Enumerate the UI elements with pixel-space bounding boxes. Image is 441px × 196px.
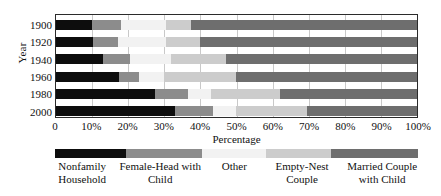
legend-label-line: Nonfamily — [45, 160, 119, 173]
x-tick-label-20: 20% — [118, 120, 138, 132]
x-axis-tick-labels: 010%20%30%40%50%60%70%80%90%100% — [55, 120, 418, 134]
bar-segment — [155, 89, 187, 99]
gridline-70 — [309, 15, 310, 117]
legend-swatch-1 — [55, 149, 126, 158]
y-axis-tick-labels: 190019201940196019802000 — [14, 17, 52, 115]
bar-segment — [121, 20, 166, 30]
bar-row — [56, 89, 417, 99]
bar-segment — [236, 106, 306, 116]
bar-segment — [175, 106, 213, 116]
y-tick-label-1920: 1920 — [14, 34, 52, 50]
gridline-10 — [92, 15, 93, 117]
bar-segment — [171, 54, 225, 64]
bar-row — [56, 72, 417, 82]
bar-row — [56, 54, 417, 64]
legend-label-line: Female-Head with — [119, 160, 201, 173]
legend-label-line: Other — [201, 160, 268, 173]
legend-label-line: Child — [119, 173, 201, 186]
bar-segment — [139, 72, 164, 82]
legend-swatch-2 — [126, 149, 202, 158]
y-tick-label-2000: 2000 — [14, 104, 52, 120]
legend-label-1: NonfamilyHousehold — [45, 160, 119, 186]
legend-label-line: with Child — [336, 173, 428, 186]
plot-area — [55, 14, 418, 118]
x-tick-label-70: 70% — [299, 120, 319, 132]
bar-segment — [103, 54, 130, 64]
legend-label-3: Other — [201, 160, 268, 186]
x-tick-label-60: 60% — [263, 120, 283, 132]
x-axis-label: Percentage — [55, 133, 418, 145]
x-tick-label-50: 50% — [226, 120, 246, 132]
gridline-60 — [273, 15, 274, 117]
bar-segment — [307, 106, 417, 116]
legend-swatch-bar — [55, 149, 418, 158]
legend-swatch-5 — [331, 149, 418, 158]
bar-row — [56, 37, 417, 47]
legend-label-2: Female-Head withChild — [119, 160, 201, 186]
bar-segment — [166, 20, 191, 30]
legend-swatch-4 — [266, 149, 331, 158]
plot-inner — [56, 15, 417, 117]
bar-segment — [93, 37, 118, 47]
bar-segment — [226, 54, 417, 64]
bar-segment — [191, 20, 417, 30]
bar-segment — [56, 106, 175, 116]
gridline-20 — [128, 15, 129, 117]
bar-segment — [236, 72, 417, 82]
bar-segment — [56, 37, 93, 47]
gridline-40 — [200, 15, 201, 117]
x-tick-label-0: 0 — [52, 120, 58, 132]
x-tick-label-40: 40% — [190, 120, 210, 132]
bar-row — [56, 106, 417, 116]
bar-segment — [211, 89, 280, 99]
bar-segment — [164, 72, 236, 82]
bar-segment — [56, 72, 119, 82]
y-tick-label-1980: 1980 — [14, 86, 52, 102]
gridline-30 — [164, 15, 165, 117]
gridline-90 — [381, 15, 382, 117]
y-tick-label-1960: 1960 — [14, 69, 52, 85]
legend-label-5: Married Couplewith Child — [336, 160, 428, 186]
chart-legend: NonfamilyHouseholdFemale-Head withChildO… — [55, 149, 418, 194]
bar-segment — [213, 106, 236, 116]
legend-label-line: Empty-Nest — [268, 160, 337, 173]
bar-segment — [200, 37, 417, 47]
legend-label-4: Empty-NestCouple — [268, 160, 337, 186]
bar-segment — [130, 54, 172, 64]
legend-label-row: NonfamilyHouseholdFemale-Head withChildO… — [45, 160, 428, 186]
bar-segment — [56, 54, 103, 64]
x-tick-label-30: 30% — [154, 120, 174, 132]
gridline-50 — [237, 15, 238, 117]
x-tick-label-10: 10% — [81, 120, 101, 132]
x-tick-label-100: 100% — [405, 120, 431, 132]
bar-segment — [118, 37, 166, 47]
bar-segment — [280, 89, 417, 99]
bar-row — [56, 20, 417, 30]
y-tick-label-1940: 1940 — [14, 52, 52, 68]
bar-segment — [188, 89, 211, 99]
chart-figure: Year 190019201940196019802000 010%20%30%… — [0, 0, 441, 196]
x-tick-label-80: 80% — [335, 120, 355, 132]
legend-label-line: Household — [45, 173, 119, 186]
bar-segment — [56, 89, 155, 99]
y-tick-label-1900: 1900 — [14, 17, 52, 33]
bar-segment — [119, 72, 139, 82]
bar-segment — [56, 20, 92, 30]
bar-segment — [166, 37, 200, 47]
gridline-80 — [345, 15, 346, 117]
legend-label-line: Couple — [268, 173, 337, 186]
legend-swatch-3 — [202, 149, 266, 158]
legend-label-line: Married Couple — [336, 160, 428, 173]
x-tick-label-90: 90% — [372, 120, 392, 132]
bar-segment — [92, 20, 121, 30]
